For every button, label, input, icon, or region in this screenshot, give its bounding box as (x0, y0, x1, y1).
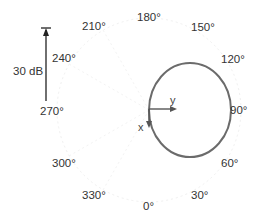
x-axis-label: x (138, 122, 144, 133)
angle-label-120: 120° (221, 54, 245, 66)
grid-spoke (103, 30, 149, 110)
angle-label-300: 300° (52, 158, 76, 170)
scale-bar-arrowhead-icon (43, 28, 49, 36)
grid-spoke (69, 64, 149, 110)
angle-label-90: 90° (230, 105, 247, 117)
angle-label-150: 150° (191, 22, 215, 34)
angle-label-30: 30° (191, 190, 208, 202)
angle-label-0: 0° (143, 201, 154, 213)
angle-label-270: 270° (40, 106, 64, 118)
polar-diagram: 180° 150° 120° 90° 60° 30° 0° 330° 300° … (0, 0, 266, 221)
angle-label-180: 180° (137, 12, 161, 24)
angle-label-60: 60° (221, 158, 238, 170)
angle-label-240: 240° (52, 53, 76, 65)
y-axis-arrowhead-icon (170, 106, 177, 112)
grid-spoke (69, 110, 149, 156)
angle-label-210: 210° (82, 21, 106, 33)
radiation-pattern-curve (149, 63, 231, 157)
angle-label-330: 330° (82, 190, 106, 202)
y-axis-label: y (170, 95, 176, 106)
scale-bar-label: 30 dB (13, 66, 43, 78)
